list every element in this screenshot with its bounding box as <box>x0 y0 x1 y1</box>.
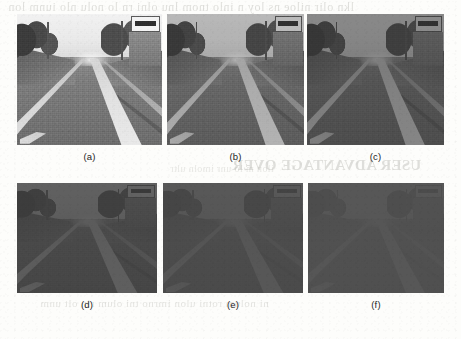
road-scene-b <box>167 14 304 145</box>
figure-panel-f <box>308 183 444 293</box>
figure-panel-c <box>307 14 444 145</box>
panel-caption-a: (a) <box>17 151 162 162</box>
exposure-veil <box>167 14 304 145</box>
figure-panel-b <box>167 14 304 145</box>
panel-caption-b: (b) <box>167 151 304 162</box>
exposure-veil <box>308 183 444 293</box>
road-scene-f <box>308 183 444 293</box>
figure-panel-d <box>17 183 157 293</box>
figure-panel-e <box>163 183 303 293</box>
road-scene-a <box>17 14 162 145</box>
panel-caption-d: (d) <box>17 299 157 310</box>
panel-caption-e: (e) <box>163 299 303 310</box>
figure-panel-a <box>17 14 162 145</box>
exposure-veil <box>163 183 303 293</box>
road-scene-e <box>163 183 303 293</box>
exposure-veil <box>17 183 157 293</box>
road-scene-d <box>17 183 157 293</box>
bleed-through-text-row1: ilon m lo unr imoln ultr <box>170 163 274 174</box>
figure-page: lkn olir niloe ns loy n inlo tnom lnu ol… <box>0 0 461 339</box>
panel-caption-c: (c) <box>307 151 444 162</box>
panel-caption-f: (f) <box>308 299 444 310</box>
exposure-veil <box>307 14 444 145</box>
road-scene-c <box>307 14 444 145</box>
bleed-through-text-top: lkn olir niloe ns loy n inlo tnom lnu ol… <box>8 0 354 15</box>
